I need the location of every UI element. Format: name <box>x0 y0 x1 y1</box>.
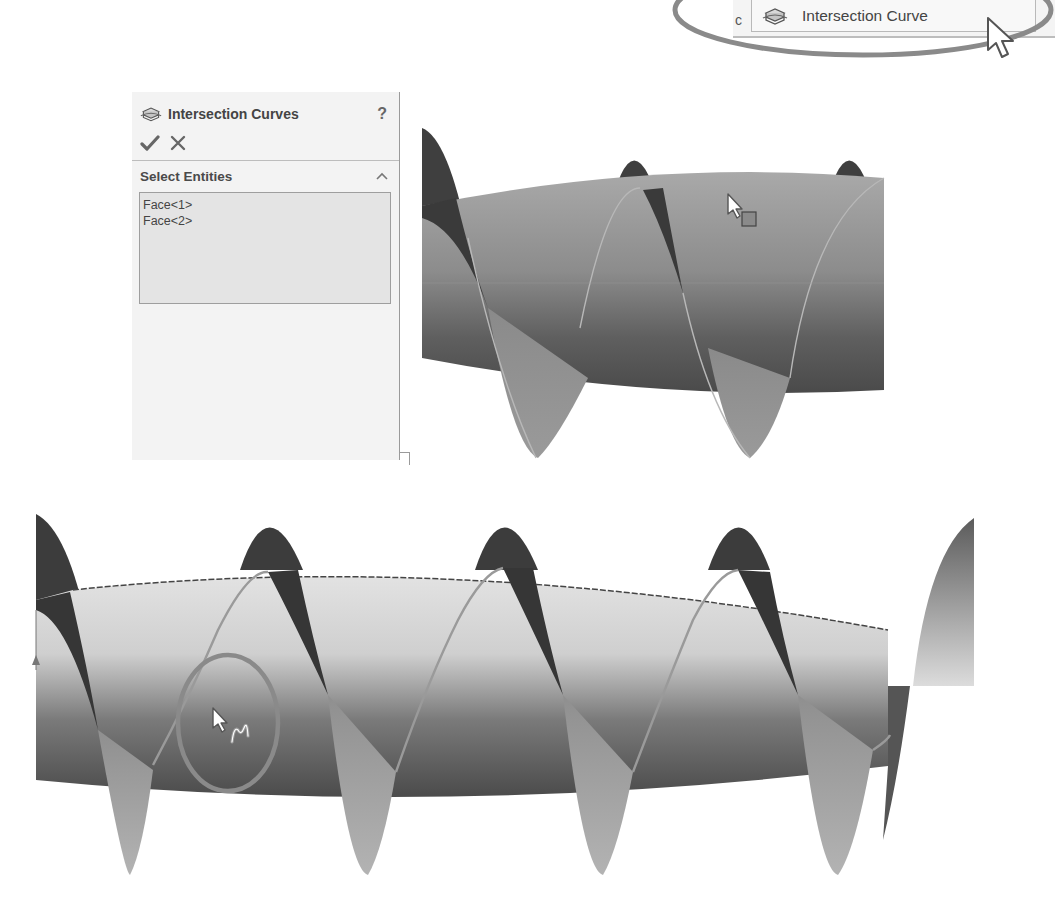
divider <box>132 160 399 161</box>
intersection-curve-icon <box>140 105 162 123</box>
section-title: Select Entities <box>140 169 375 184</box>
arrow-with-curve-filter-icon <box>210 706 258 750</box>
property-manager-actions <box>140 132 188 154</box>
graphics-viewport-result[interactable] <box>28 510 988 880</box>
selected-entities-list[interactable]: Face<1> Face<2> <box>139 192 391 304</box>
property-manager-title: Intersection Curves <box>168 106 377 122</box>
cancel-close-button[interactable] <box>168 133 188 153</box>
property-manager-panel: Intersection Curves ? Select Entities Fa… <box>132 92 400 460</box>
property-manager-header: Intersection Curves ? <box>140 102 389 126</box>
select-entities-section-header[interactable]: Select Entities <box>140 166 389 186</box>
menu-item-label: Intersection Curve <box>802 7 928 25</box>
help-button[interactable]: ? <box>377 105 387 123</box>
ok-checkmark-button[interactable] <box>140 133 160 153</box>
graphics-viewport-preview[interactable] <box>418 118 898 468</box>
list-item[interactable]: Face<2> <box>143 213 387 229</box>
clipped-menu-text: c <box>735 12 742 28</box>
mouse-pointer-icon <box>984 16 1024 64</box>
list-item[interactable]: Face<1> <box>143 197 387 213</box>
intersection-curve-icon <box>762 6 788 26</box>
panel-corner <box>399 452 410 465</box>
arrow-with-face-filter-icon <box>724 192 764 232</box>
chevron-up-icon[interactable] <box>375 171 389 181</box>
